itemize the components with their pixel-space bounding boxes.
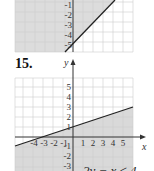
x-axis-label: x [142, 141, 146, 152]
tick-label: -3 [60, 161, 71, 171]
tick-label: -4 [29, 138, 39, 148]
tick-label: -2 [60, 151, 71, 161]
equation-caption: 2y − x ≤ 4 [83, 163, 136, 171]
x-tick-labels-positive: 1 2 3 4 5 [78, 138, 128, 148]
x-axis-arrow-icon [140, 135, 146, 140]
tick-label: 4 [62, 92, 71, 102]
tick-label: 5 [62, 82, 71, 92]
tick-label: -2 [49, 138, 59, 148]
tick-label: 3 [62, 102, 71, 112]
x-tick-labels-negative: -4 -3 -2 -1 [29, 138, 69, 148]
tick-label: 2 [62, 112, 71, 122]
tick-label: 1 [78, 138, 88, 148]
y-axis-arrow-icon [71, 59, 76, 65]
y-tick-labels-positive: 5 4 3 2 1 [62, 82, 71, 132]
tick-label: 3 [98, 138, 108, 148]
tick-label: 1 [62, 122, 71, 132]
tick-label: 5 [118, 138, 128, 148]
graph-canvas [0, 0, 154, 171]
y-axis-label: y [64, 57, 68, 68]
tick-label: 2 [88, 138, 98, 148]
tick-label: -1 [59, 138, 69, 148]
tick-label: 4 [108, 138, 118, 148]
tick-label: -3 [39, 138, 49, 148]
